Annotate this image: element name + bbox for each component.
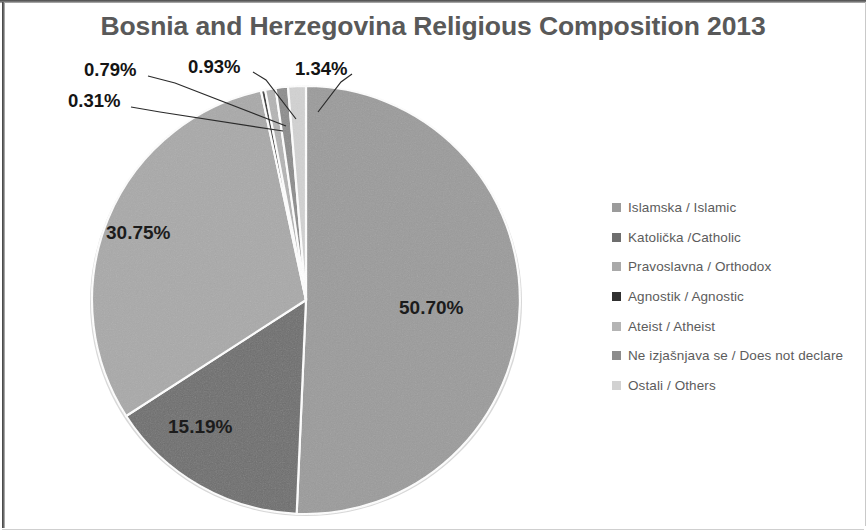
pie-label-islamic: 50.70% [399, 297, 463, 319]
legend-swatch-icon [612, 233, 621, 242]
legend-item-label: Pravoslavna / Orthodox [628, 259, 771, 274]
legend-item-atheist[interactable]: Ateist / Atheist [612, 311, 862, 341]
pie-label-atheist: 0.79% [84, 59, 136, 81]
legend-swatch-icon [612, 262, 621, 271]
chart-legend: Islamska / IslamicKatolička /CatholicPra… [612, 193, 862, 400]
legend-swatch-icon [612, 203, 621, 212]
pie-label-not-declare: 0.93% [188, 56, 240, 78]
chart-container: Bosnia and Herzegovina Religious Composi… [0, 0, 866, 530]
legend-item-label: Islamska / Islamic [628, 200, 736, 215]
legend-item-agnostic[interactable]: Agnostik / Agnostic [612, 282, 862, 312]
pie-label-others: 1.34% [295, 58, 347, 80]
legend-item-label: Agnostik / Agnostic [628, 289, 744, 304]
legend-item-label: Katolička /Catholic [628, 230, 741, 245]
pie-chart-plot-area: 50.70% 30.75% 15.19% 0.79% 0.31% 0.93% 1… [0, 0, 600, 530]
pie-label-agnostic: 0.31% [68, 90, 120, 112]
legend-swatch-icon [612, 322, 621, 331]
pie-label-orthodox: 30.75% [106, 222, 170, 244]
legend-swatch-icon [612, 292, 621, 301]
legend-item-label: Ateist / Atheist [628, 319, 715, 334]
legend-item-label: Ne izjašnjava se / Does not declare [628, 348, 843, 363]
pie-label-catholic: 15.19% [168, 416, 232, 438]
legend-item-orthodox[interactable]: Pravoslavna / Orthodox [612, 252, 862, 282]
legend-item-others[interactable]: Ostali / Others [612, 371, 862, 401]
legend-item-label: Ostali / Others [628, 378, 716, 393]
legend-item-not-declare[interactable]: Ne izjašnjava se / Does not declare [612, 341, 862, 371]
legend-item-islamic[interactable]: Islamska / Islamic [612, 193, 862, 223]
legend-swatch-icon [612, 351, 621, 360]
legend-swatch-icon [612, 381, 621, 390]
legend-item-catholic[interactable]: Katolička /Catholic [612, 223, 862, 253]
